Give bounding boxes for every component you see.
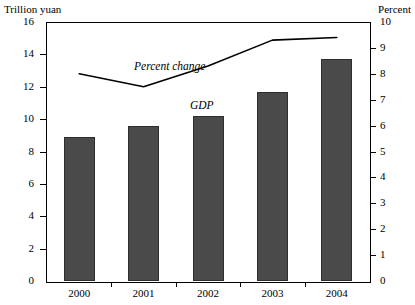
annotation-gdp: GDP — [190, 99, 214, 111]
annotation-percent-change: Percent change — [134, 60, 205, 72]
chart-container: Trillion yuan Percent 0246810121416 0123… — [0, 0, 415, 305]
line-series-percent-change — [0, 0, 415, 305]
